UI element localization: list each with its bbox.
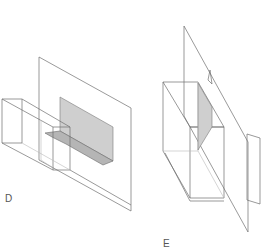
figure-e-shaded-section [198,83,212,150]
figure-e-flag-right [247,134,260,204]
figure-e-box-top [163,82,224,127]
figure-e [163,26,260,232]
figure-d-box-back [2,99,22,143]
figure-e-box-front [190,127,224,198]
figure-d-label: D [5,193,12,204]
figure-e-flag-top [208,70,212,84]
figure-d [2,57,131,211]
diagram-canvas [0,0,265,252]
figure-e-label: E [163,238,170,249]
